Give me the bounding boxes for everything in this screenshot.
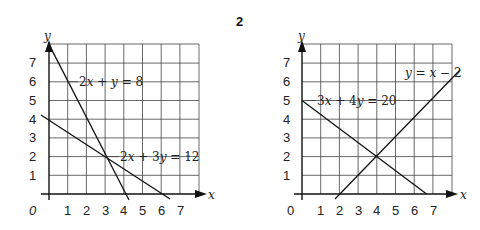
problem-number: 2 xyxy=(236,14,243,29)
svg-text:1: 1 xyxy=(29,168,36,183)
axes xyxy=(41,49,197,200)
graph-left xyxy=(41,40,207,200)
svg-text:2: 2 xyxy=(283,149,290,164)
svg-text:1: 1 xyxy=(317,203,324,218)
label-y-eq-x-minus-2: y = x − 2 xyxy=(404,66,462,80)
svg-text:6: 6 xyxy=(411,203,418,218)
svg-text:5: 5 xyxy=(283,93,290,108)
svg-text:3: 3 xyxy=(102,203,109,218)
label-2x-plus-3y-eq-12: 2x + 3y = 12 xyxy=(120,150,199,164)
svg-text:4: 4 xyxy=(120,203,127,218)
x-tick-labels: 1 2 3 4 5 6 7 xyxy=(64,203,184,218)
svg-text:6: 6 xyxy=(29,74,36,89)
svg-text:6: 6 xyxy=(158,203,165,218)
svg-text:5: 5 xyxy=(392,203,399,218)
x-axis-arrow-icon xyxy=(195,190,207,198)
x-axis-label: x xyxy=(208,188,215,202)
x-axis-label: x xyxy=(460,188,467,202)
svg-text:2: 2 xyxy=(83,203,90,218)
label-2x-plus-y-eq-8: 2x + y = 8 xyxy=(79,75,143,89)
svg-text:3: 3 xyxy=(355,203,362,218)
svg-text:7: 7 xyxy=(177,203,184,218)
grid xyxy=(49,44,199,194)
svg-text:5: 5 xyxy=(29,93,36,108)
y-tick-labels: 1 2 3 4 5 6 7 xyxy=(29,55,36,183)
svg-text:3: 3 xyxy=(29,130,36,145)
svg-text:7: 7 xyxy=(430,203,437,218)
line-2x-plus-y-eq-8 xyxy=(49,44,129,200)
line-y-eq-x-minus-2 xyxy=(335,70,460,199)
svg-text:2: 2 xyxy=(29,149,36,164)
svg-text:5: 5 xyxy=(139,203,146,218)
graph-right xyxy=(294,40,460,200)
svg-text:2: 2 xyxy=(336,203,343,218)
y-axis-label: y xyxy=(297,29,305,43)
svg-text:7: 7 xyxy=(29,55,36,70)
svg-text:1: 1 xyxy=(64,203,71,218)
y-axis-label: y xyxy=(43,29,51,43)
y-tick-labels: 1 2 3 4 5 6 7 xyxy=(283,55,290,183)
svg-text:4: 4 xyxy=(283,112,290,127)
svg-text:7: 7 xyxy=(283,55,290,70)
svg-text:6: 6 xyxy=(283,74,290,89)
origin-label: 0 xyxy=(29,203,37,218)
svg-text:1: 1 xyxy=(283,168,290,183)
label-3x-plus-4y-eq-20: 3x + 4y = 20 xyxy=(317,94,396,108)
figure-canvas: 2 2x + y = 8 xyxy=(0,0,480,230)
svg-text:4: 4 xyxy=(373,203,380,218)
origin-label: 0 xyxy=(287,203,294,218)
svg-text:3: 3 xyxy=(283,130,290,145)
svg-text:4: 4 xyxy=(29,112,36,127)
x-tick-labels: 1 2 3 4 5 6 7 xyxy=(317,203,437,218)
